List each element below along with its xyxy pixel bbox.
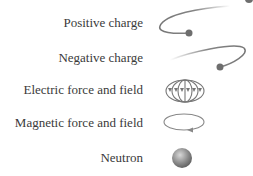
positive-charge-icon — [160, 6, 230, 37]
neutron-icon — [172, 148, 192, 168]
magnetic-field-icon — [164, 114, 204, 133]
legend-icons — [0, 0, 253, 176]
electric-field-icon — [166, 80, 204, 102]
partial-charge-icon — [245, 0, 253, 3]
negative-charge-icon — [170, 46, 245, 70]
